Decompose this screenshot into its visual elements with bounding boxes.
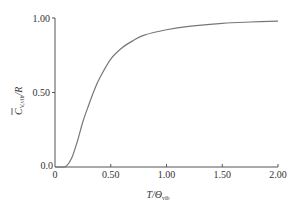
y-ticks: 1.00 0.50 0.0 (33, 13, 56, 171)
y-tick-label: 1.00 (33, 13, 51, 24)
chart: 1.00 0.50 0.0 0 0.50 1.00 1.50 2.00 T/Θv… (0, 0, 297, 210)
heat-capacity-curve (55, 21, 278, 167)
x-tick-label: 0.50 (102, 169, 120, 180)
y-axis-label: CV,vib/R (12, 87, 25, 115)
x-tick-label: 1.50 (214, 169, 232, 180)
y-tick-label: 0.0 (41, 160, 54, 171)
x-axis-label: T/Θvib (146, 189, 169, 201)
svg-text:CV,vib/R: CV,vib/R (13, 87, 25, 115)
x-tick-label: 2.00 (269, 169, 287, 180)
x-ticks: 0 0.50 1.00 1.50 2.00 (53, 164, 287, 180)
x-tick-label: 1.00 (158, 169, 176, 180)
x-tick-label: 0 (53, 169, 58, 180)
y-tick-label: 0.50 (33, 87, 51, 98)
